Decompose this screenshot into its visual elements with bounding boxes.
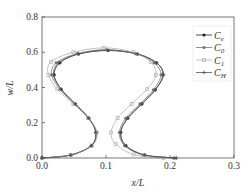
series-CH	[40, 48, 178, 159]
x-tick-label: 0.2	[164, 161, 176, 171]
y-axis-label: w/L	[4, 80, 15, 95]
y-tick-label: 0.4	[26, 83, 38, 93]
legend-marker	[202, 33, 205, 36]
x-axis-label: x/L	[131, 177, 145, 188]
y-tick-label: 0.0	[26, 153, 38, 163]
y-tick-label: 0.8	[26, 12, 38, 22]
x-tick-label: 0.1	[100, 161, 112, 171]
y-tick-label: 0.2	[26, 118, 38, 128]
legend: CeC0C1CH	[193, 26, 231, 81]
series-Ce	[40, 49, 176, 160]
x-tick-label: 0.3	[228, 161, 240, 171]
legend-marker	[202, 46, 205, 49]
y-tick-label: 0.6	[26, 47, 38, 57]
chart: 0.00.10.20.30.00.20.40.60.8 x/L w/L CeC0…	[0, 0, 251, 194]
series-C0	[40, 48, 174, 160]
series-line-CH	[42, 50, 176, 158]
